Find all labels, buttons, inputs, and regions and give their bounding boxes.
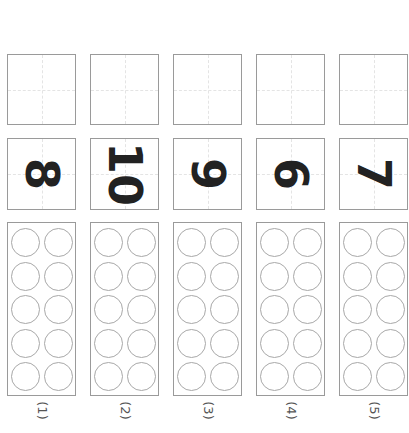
number: 10 — [90, 141, 160, 208]
counting-circle[interactable] — [177, 228, 206, 257]
counting-circle[interactable] — [343, 362, 372, 391]
counting-circle[interactable] — [94, 262, 123, 291]
number: 7 — [339, 141, 409, 208]
counting-circle[interactable] — [127, 228, 156, 257]
counting-circle[interactable] — [260, 228, 289, 257]
writing-box[interactable] — [339, 54, 408, 125]
question-label: (5) — [339, 403, 409, 418]
counting-circle[interactable] — [177, 262, 206, 291]
counting-circle[interactable] — [376, 295, 405, 324]
counting-circle[interactable] — [44, 329, 73, 358]
counting-circle[interactable] — [11, 262, 40, 291]
column-4: 6 (4) — [256, 0, 326, 433]
counting-circle[interactable] — [293, 262, 322, 291]
counting-circle[interactable] — [293, 295, 322, 324]
counting-circle[interactable] — [376, 262, 405, 291]
counting-circle[interactable] — [94, 228, 123, 257]
digit-box: 8 — [7, 138, 76, 210]
column-3: 9 (3) — [173, 0, 243, 433]
counting-circle[interactable] — [376, 228, 405, 257]
question-label: (3) — [173, 403, 243, 418]
column-2: 10 (2) — [90, 0, 160, 433]
ten-frame — [173, 222, 242, 396]
counting-circle[interactable] — [260, 295, 289, 324]
ten-frame — [7, 222, 76, 396]
writing-box[interactable] — [90, 54, 159, 125]
number: 9 — [173, 141, 243, 208]
counting-circle[interactable] — [210, 262, 239, 291]
writing-box[interactable] — [173, 54, 242, 125]
digit-box: 7 — [339, 138, 408, 210]
number: 6 — [256, 141, 326, 208]
ten-frame — [90, 222, 159, 396]
counting-circle[interactable] — [177, 329, 206, 358]
column-5: 7 (5) — [339, 0, 409, 433]
counting-circle[interactable] — [127, 295, 156, 324]
counting-circle[interactable] — [11, 329, 40, 358]
ten-frame — [339, 222, 408, 396]
counting-circle[interactable] — [260, 262, 289, 291]
counting-circle[interactable] — [293, 362, 322, 391]
counting-circle[interactable] — [11, 228, 40, 257]
counting-circle[interactable] — [127, 362, 156, 391]
counting-circle[interactable] — [44, 228, 73, 257]
counting-circle[interactable] — [44, 362, 73, 391]
counting-circle[interactable] — [293, 228, 322, 257]
writing-box[interactable] — [7, 54, 76, 125]
counting-circle[interactable] — [94, 329, 123, 358]
counting-circle[interactable] — [260, 329, 289, 358]
counting-circle[interactable] — [11, 295, 40, 324]
digit-box: 9 — [173, 138, 242, 210]
counting-circle[interactable] — [127, 329, 156, 358]
question-label: (4) — [256, 403, 326, 418]
digit-box: 6 — [256, 138, 325, 210]
counting-circle[interactable] — [376, 362, 405, 391]
counting-circle[interactable] — [127, 262, 156, 291]
digit-box: 10 — [90, 138, 159, 210]
counting-circle[interactable] — [177, 362, 206, 391]
column-1: 8 (1) — [7, 0, 77, 433]
counting-circle[interactable] — [177, 295, 206, 324]
counting-circle[interactable] — [210, 362, 239, 391]
question-label: (2) — [90, 403, 160, 418]
counting-circle[interactable] — [376, 329, 405, 358]
counting-circle[interactable] — [343, 228, 372, 257]
counting-circle[interactable] — [293, 329, 322, 358]
counting-circle[interactable] — [11, 362, 40, 391]
counting-circle[interactable] — [44, 262, 73, 291]
number: 8 — [7, 141, 77, 208]
question-label: (1) — [7, 403, 77, 418]
counting-circle[interactable] — [44, 295, 73, 324]
counting-circle[interactable] — [210, 329, 239, 358]
writing-box[interactable] — [256, 54, 325, 125]
counting-circle[interactable] — [260, 362, 289, 391]
counting-circle[interactable] — [343, 295, 372, 324]
counting-circle[interactable] — [94, 362, 123, 391]
counting-circle[interactable] — [343, 329, 372, 358]
counting-circle[interactable] — [210, 295, 239, 324]
ten-frame — [256, 222, 325, 396]
counting-circle[interactable] — [210, 228, 239, 257]
counting-circle[interactable] — [94, 295, 123, 324]
counting-circle[interactable] — [343, 262, 372, 291]
